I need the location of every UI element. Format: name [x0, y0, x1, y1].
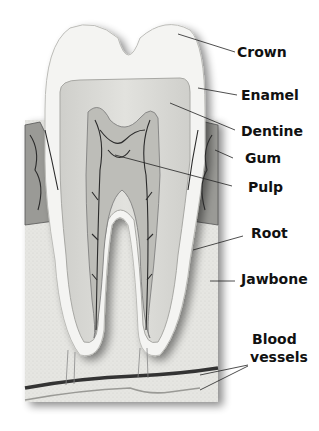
label-root: Root: [251, 226, 288, 241]
label-blood: Blood: [252, 332, 297, 347]
label-vessels: vessels: [250, 350, 308, 365]
label-enamel: Enamel: [241, 88, 299, 103]
tooth-diagram: [0, 0, 319, 431]
label-pulp: Pulp: [248, 180, 283, 195]
label-crown: Crown: [237, 45, 287, 60]
label-gum: Gum: [245, 151, 281, 166]
label-jawbone: Jawbone: [241, 272, 308, 287]
label-dentine: Dentine: [241, 124, 303, 139]
